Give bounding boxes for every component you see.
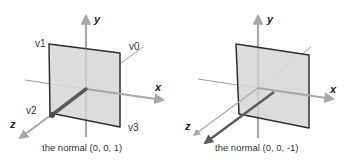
y-axis-label: y	[93, 13, 101, 25]
z-axis-label: z	[184, 120, 191, 132]
right-panel: y x z the normal (0, 0, -1)	[184, 13, 337, 153]
y-axis-label: y	[266, 13, 274, 25]
normal-tip	[49, 112, 55, 118]
vertex-label-v2: v2	[26, 105, 37, 116]
left-caption: the normal (0, 0, 1)	[42, 142, 122, 153]
x-axis-label: x	[154, 81, 162, 93]
vertex-label-v3: v3	[128, 122, 139, 133]
vertex-label-v1: v1	[35, 38, 46, 49]
z-axis-label: z	[9, 118, 16, 130]
right-caption: the normal (0, 0, -1)	[215, 142, 298, 153]
quad-plane	[236, 44, 309, 128]
vertex-label-v0: v0	[129, 41, 140, 52]
quad-plane	[49, 44, 120, 127]
left-panel: y x z v1 v0 v2 v3 the normal (0, 0, 1)	[9, 13, 163, 153]
diagram-canvas: y x z v1 v0 v2 v3 the normal (0, 0, 1) y…	[0, 0, 350, 162]
x-axis-label: x	[329, 83, 337, 95]
